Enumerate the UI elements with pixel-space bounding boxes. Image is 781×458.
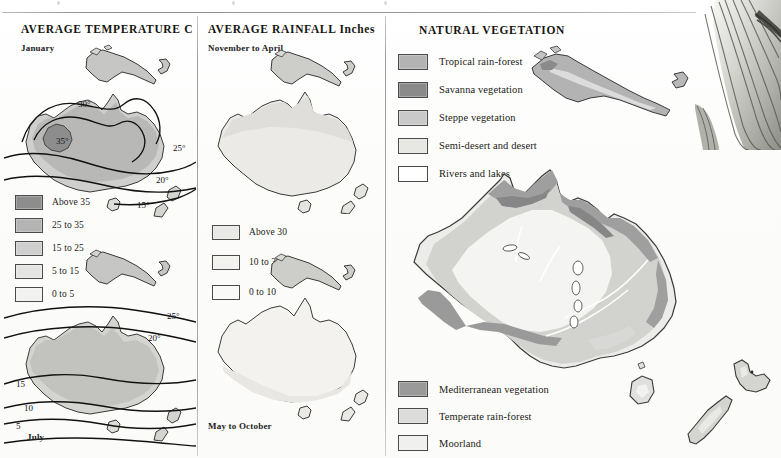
legend-row: Above 35 <box>15 194 90 210</box>
isotherm-label-20: 20° <box>156 175 169 185</box>
island-patch-2 <box>550 46 561 53</box>
rainfall-section-title: AVERAGE RAINFALL Inches <box>208 23 381 35</box>
legend-row: Moorland <box>398 434 549 452</box>
legend-row: 25 to 35 <box>15 217 90 233</box>
january-temperature-map: 30° 35° 25° 20° 15° <box>4 38 196 218</box>
isotherm-label-25: 25° <box>173 143 186 153</box>
new-guinea-shape <box>271 50 355 86</box>
isotherm-label-15: 15° <box>137 200 150 210</box>
new-zealand-south <box>154 203 168 217</box>
new-zealand-north <box>354 390 368 405</box>
legend-label: Savanna vegetation <box>439 84 523 95</box>
vegetation-new-zealand-map <box>660 358 781 458</box>
new-zealand-south <box>341 407 355 421</box>
isotherm-label-35: 35° <box>56 136 69 146</box>
australia-outline <box>218 298 356 402</box>
july-temperature-map: 25° 20° 15 10 5 <box>4 238 196 453</box>
new-zealand-north <box>354 184 368 199</box>
new-zealand-south <box>341 201 355 214</box>
legend-swatch <box>212 225 240 240</box>
legend-swatch <box>398 408 428 424</box>
legend-label: Steppe vegetation <box>439 112 516 123</box>
vegetation-legend-bottom: Mediterranean vegetation Temperate rain-… <box>398 380 549 458</box>
tasmania-shape <box>298 200 311 213</box>
photo-bleed-palm-fronds <box>695 0 781 150</box>
legend-row: Mediterranean vegetation <box>398 380 549 398</box>
legend-swatch <box>15 218 43 233</box>
legend-swatch <box>398 82 428 98</box>
legend-swatch <box>398 110 428 126</box>
legend-label: Temperate rain-forest <box>439 411 532 422</box>
legend-row: Tropical rain-forest <box>398 52 537 71</box>
legend-swatch <box>398 54 428 70</box>
isotherm-label-5: 5 <box>16 421 21 431</box>
column-divider-2 <box>385 16 386 456</box>
legend-row: Above 30 <box>212 224 287 240</box>
legend-swatch <box>398 381 428 397</box>
page-top-rule <box>2 12 696 13</box>
tasmania-shape <box>298 406 311 419</box>
scan-smudge <box>232 1 235 5</box>
isotherm-label-15: 15 <box>16 379 26 389</box>
nz-marker-dot <box>751 371 754 374</box>
legend-label: 25 to 35 <box>52 220 84 230</box>
legend-label: Mediterranean vegetation <box>439 384 549 395</box>
legend-row: Savanna vegetation <box>398 80 537 99</box>
column-divider-1 <box>197 16 198 456</box>
legend-label: Above 35 <box>52 197 90 207</box>
new-zealand-north-island <box>734 360 770 392</box>
temperature-section-title: AVERAGE TEMPERATURE C <box>21 23 194 35</box>
new-guinea-shape <box>86 45 170 84</box>
new-guinea-shape <box>271 254 355 290</box>
isotherm-label-10: 10 <box>24 403 34 413</box>
legend-swatch <box>398 435 428 451</box>
rainfall-may-oct-map <box>200 246 382 426</box>
isotherm-label-30: 30° <box>78 99 91 109</box>
legend-row: Temperate rain-forest <box>398 407 549 425</box>
legend-label: Moorland <box>439 438 481 449</box>
legend-label: Above 30 <box>249 227 287 237</box>
legend-label: Tropical rain-forest <box>439 56 523 67</box>
vegetation-new-guinea-map <box>520 40 700 140</box>
legend-swatch <box>15 195 43 210</box>
scan-smudge <box>384 1 387 5</box>
july-map-caption: July <box>27 432 44 442</box>
isotherm-label-20: 20° <box>148 333 161 343</box>
rainfall-nov-apr-map <box>200 42 382 214</box>
new-britain-shape <box>672 72 688 88</box>
legend-row: Steppe vegetation <box>398 108 537 127</box>
palm-frond-illustration <box>695 0 781 150</box>
scan-smudge <box>57 1 60 5</box>
may-october-map-caption: May to October <box>208 421 272 431</box>
new-guinea-shape <box>86 250 170 286</box>
bass-islet <box>638 362 645 369</box>
isotherm-label-25: 25° <box>167 311 180 321</box>
atlas-page: AVERAGE TEMPERATURE C January <box>0 0 781 458</box>
